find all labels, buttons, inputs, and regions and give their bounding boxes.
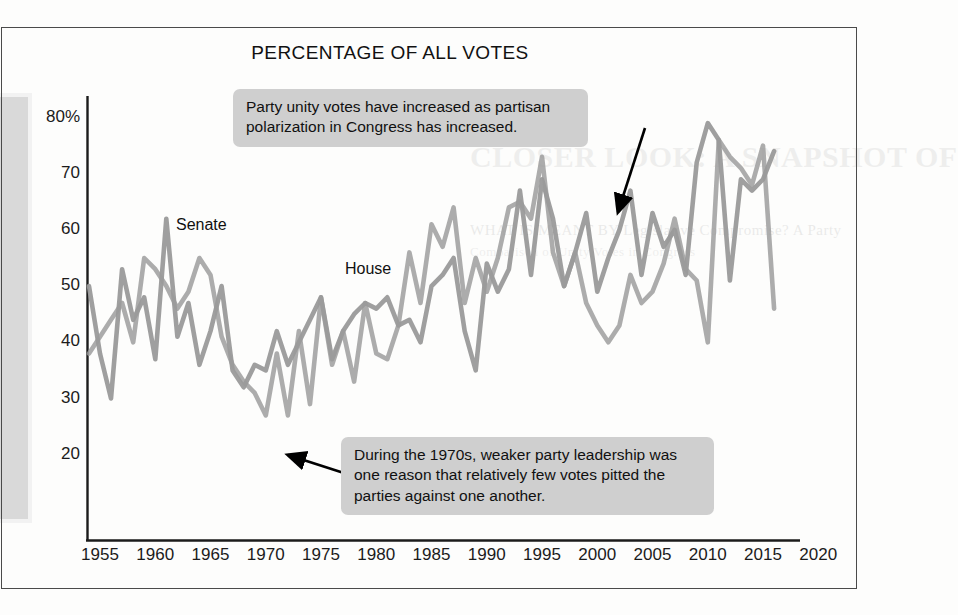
series-label-house: House	[345, 260, 391, 278]
x-tick-1960: 1960	[125, 545, 185, 565]
x-tick-2020: 2020	[788, 545, 848, 565]
y-tick-70: 70	[0, 163, 80, 183]
y-tick-80: 80%	[0, 107, 80, 127]
x-tick-2015: 2015	[733, 545, 793, 565]
series-label-senate: Senate	[176, 216, 227, 234]
x-tick-1975: 1975	[291, 545, 351, 565]
x-tick-1955: 1955	[70, 545, 130, 565]
y-tick-20: 20	[0, 444, 80, 464]
y-tick-60: 60	[0, 219, 80, 239]
y-tick-30: 30	[0, 388, 80, 408]
series-line-house	[89, 140, 774, 415]
y-tick-50: 50	[0, 275, 80, 295]
x-tick-1980: 1980	[346, 545, 406, 565]
x-tick-2010: 2010	[678, 545, 738, 565]
arrow-to-house-1972	[288, 455, 347, 474]
x-tick-1995: 1995	[512, 545, 572, 565]
callout-party-unity-increase: Party unity votes have increased as part…	[233, 89, 588, 147]
x-tick-1990: 1990	[457, 545, 517, 565]
x-tick-2005: 2005	[623, 545, 683, 565]
y-tick-40: 40	[0, 331, 80, 351]
x-tick-1970: 1970	[236, 545, 296, 565]
callout-weak-party-leadership-1970s: During the 1970s, weaker party leadershi…	[341, 437, 714, 515]
x-tick-1985: 1985	[402, 545, 462, 565]
chart-series-lines	[89, 123, 774, 415]
x-tick-2000: 2000	[567, 545, 627, 565]
series-line-senate	[89, 123, 774, 398]
x-tick-1965: 1965	[181, 545, 241, 565]
